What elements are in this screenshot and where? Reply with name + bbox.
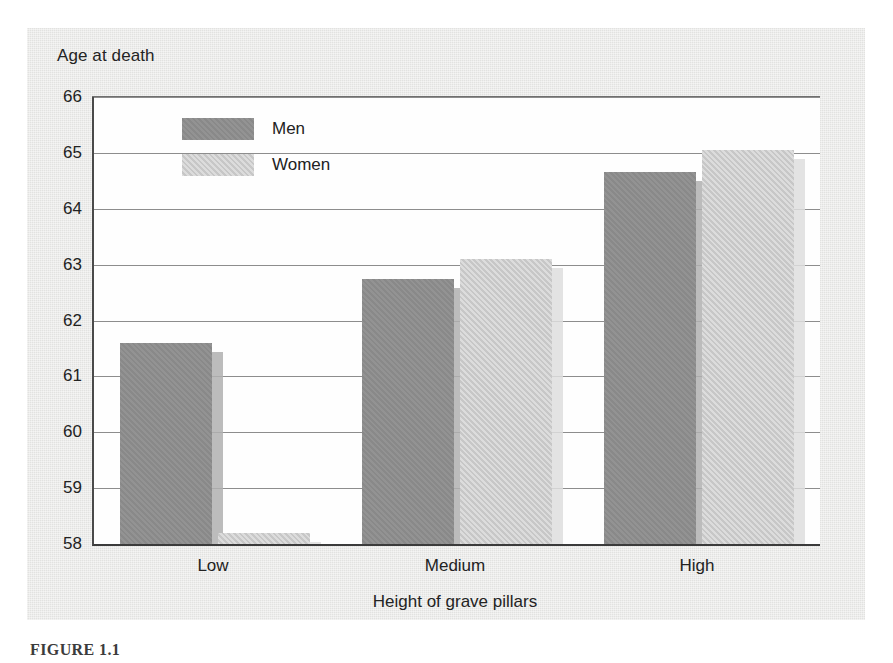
bar-body xyxy=(362,279,454,544)
y-tick-label-65: 65 xyxy=(42,143,82,163)
bar-shadow xyxy=(310,542,321,544)
bar-medium-women xyxy=(460,259,552,544)
bar-body xyxy=(120,343,212,544)
bar-high-men xyxy=(604,172,696,544)
y-tick-label-60: 60 xyxy=(42,422,82,442)
figure-caption: FIGURE 1.1 xyxy=(30,641,120,663)
x-category-label-medium: Medium xyxy=(425,556,485,576)
legend-label-men: Men xyxy=(272,119,305,139)
y-tick-label-61: 61 xyxy=(42,366,82,386)
y-tick-label-58: 58 xyxy=(42,534,82,554)
y-tick-label-63: 63 xyxy=(42,255,82,275)
bar-low-women xyxy=(218,533,310,544)
y-tick-label-66: 66 xyxy=(42,87,82,107)
bar-medium-men xyxy=(362,279,454,544)
gridline-66 xyxy=(94,97,820,98)
bar-shadow xyxy=(552,268,563,544)
x-category-label-low: Low xyxy=(197,556,228,576)
y-tick-label-59: 59 xyxy=(42,478,82,498)
bar-shadow xyxy=(212,352,223,544)
y-tick-label-62: 62 xyxy=(42,311,82,331)
legend-swatch-women xyxy=(182,154,254,176)
legend-label-women: Women xyxy=(272,155,330,175)
legend-swatch-men xyxy=(182,118,254,140)
bar-low-men xyxy=(120,343,212,544)
bar-body xyxy=(702,150,794,544)
legend-item-men: Men xyxy=(182,111,330,147)
legend-item-women: Women xyxy=(182,147,330,183)
y-tick-label-64: 64 xyxy=(42,199,82,219)
y-axis-title: Age at death xyxy=(57,46,155,66)
bar-high-women xyxy=(702,150,794,544)
bar-body xyxy=(218,533,310,544)
bar-shadow xyxy=(794,159,805,544)
figure-container: Age at death 666564636261605958 LowMediu… xyxy=(0,0,893,663)
chart-legend: MenWomen xyxy=(182,111,330,183)
x-category-label-high: High xyxy=(680,556,715,576)
bar-body xyxy=(460,259,552,544)
bar-body xyxy=(604,172,696,544)
x-axis-title: Height of grave pillars xyxy=(92,592,818,612)
